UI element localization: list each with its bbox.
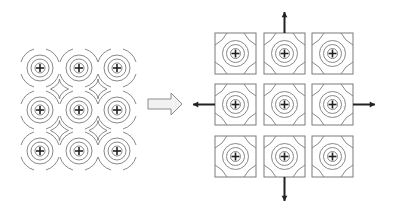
saddle-contour: [51, 121, 69, 141]
charge-node: [60, 132, 98, 170]
saddle-contour: [51, 79, 69, 99]
separated-charge-cells: [193, 12, 375, 201]
saddle-contour: [89, 121, 107, 141]
overlapping-charge-lattice: [21, 49, 136, 170]
diagram-canvas: [0, 0, 394, 213]
arrow-up-icon: [282, 12, 288, 33]
charge-cell: [312, 136, 353, 177]
plus-charge-icon: [36, 147, 44, 155]
saddle-contour: [89, 79, 107, 99]
charge-node: [21, 91, 59, 129]
charge-cell: [264, 84, 305, 125]
charge-node: [98, 132, 136, 170]
plus-charge-icon: [75, 64, 83, 72]
arrow-down-icon: [282, 177, 288, 201]
plus-charge-icon: [36, 106, 44, 114]
charge-node: [60, 49, 98, 87]
charge-cell: [312, 33, 353, 74]
charge-cell: [215, 136, 256, 177]
charge-cell: [312, 84, 353, 125]
plus-charge-icon: [75, 106, 83, 114]
arrow-right-icon: [353, 102, 375, 108]
transition-arrow: [148, 93, 182, 115]
charge-cell: [215, 84, 256, 125]
charge-cell: [215, 33, 256, 74]
arrow-left-icon: [193, 102, 215, 108]
plus-charge-icon: [113, 106, 121, 114]
charge-node: [98, 49, 136, 87]
charge-node: [60, 91, 98, 129]
charge-node: [21, 49, 59, 87]
charge-node: [21, 132, 59, 170]
charge-cell: [264, 33, 305, 74]
plus-charge-icon: [75, 147, 83, 155]
plus-charge-icon: [113, 147, 121, 155]
charge-cell: [264, 136, 305, 177]
plus-charge-icon: [113, 64, 121, 72]
plus-charge-icon: [36, 64, 44, 72]
charge-node: [98, 91, 136, 129]
